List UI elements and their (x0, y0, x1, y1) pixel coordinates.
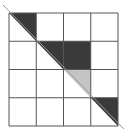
shaded-cell-r1-c1 (36, 41, 63, 69)
grid-diagram (0, 0, 127, 130)
shaded-cell-r2-c2 (64, 70, 91, 98)
shaded-cell-r1-c2 (64, 41, 91, 69)
shaded-cell-r3-c3 (91, 98, 118, 126)
shaded-cell-r0-c0 (9, 13, 36, 41)
